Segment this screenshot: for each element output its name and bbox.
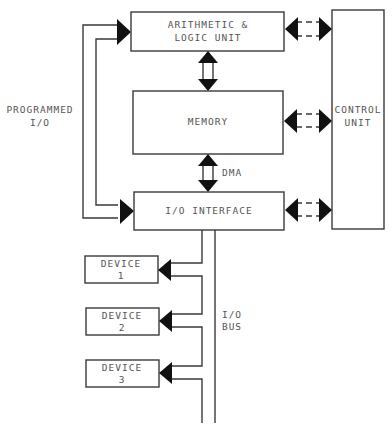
- device-3-label-line2: 3: [119, 374, 126, 385]
- device-2-label-line2: 2: [119, 322, 126, 333]
- alu-label-line1: ARITHMETIC &: [168, 19, 249, 30]
- io-interface-label: I/O INTERFACE: [165, 205, 252, 216]
- computer-architecture-diagram: PROGRAMMED I/O ARITHMETIC & LOGIC UNIT M…: [0, 0, 392, 433]
- device-1-block: DEVICE 1: [85, 256, 171, 283]
- alu-block: ARITHMETIC & LOGIC UNIT: [131, 12, 284, 51]
- control-unit-label-line1: CONTROL: [334, 104, 381, 115]
- control-unit-label-line2: UNIT: [345, 117, 372, 128]
- programmed-io-label: PROGRAMMED: [6, 104, 73, 115]
- alu-control-arrow: [285, 17, 332, 41]
- io-bus-label-line1: I/O: [222, 309, 242, 320]
- memory-label: MEMORY: [188, 116, 228, 127]
- io-interface-block: I/O INTERFACE: [134, 192, 284, 230]
- device-2-label-line1: DEVICE: [102, 310, 142, 321]
- device-2-block: DEVICE 2: [86, 308, 172, 335]
- programmed-io-label-2: I/O: [30, 117, 50, 128]
- io-control-arrow: [285, 198, 332, 222]
- dma-arrow: [198, 154, 218, 192]
- programmed-io-loop: [83, 19, 134, 224]
- device-3-label-line1: DEVICE: [102, 362, 142, 373]
- alu-label-line2: LOGIC UNIT: [174, 32, 241, 43]
- memory-block: MEMORY: [133, 91, 283, 154]
- memory-control-arrow: [284, 109, 332, 133]
- programmed-io-label-line1: PROGRAMMED: [6, 104, 73, 115]
- io-bus-label-line2: BUS: [222, 321, 242, 332]
- device-1-label-line2: 1: [118, 270, 125, 281]
- device-3-block: DEVICE 3: [86, 360, 172, 387]
- dma-label: DMA: [222, 167, 242, 178]
- io-interface-input-arrowhead: [120, 199, 134, 224]
- device-2-arrowhead: [159, 310, 172, 332]
- alu-input-arrowhead: [117, 19, 131, 45]
- io-bus: [170, 230, 215, 423]
- control-unit-block: CONTROL UNIT: [332, 10, 384, 229]
- device-1-label-line1: DEVICE: [101, 258, 141, 269]
- programmed-io-label-line2: I/O: [30, 117, 50, 128]
- device-3-arrowhead: [159, 362, 172, 384]
- device-1-arrowhead: [158, 259, 171, 281]
- alu-memory-arrow: [198, 51, 218, 91]
